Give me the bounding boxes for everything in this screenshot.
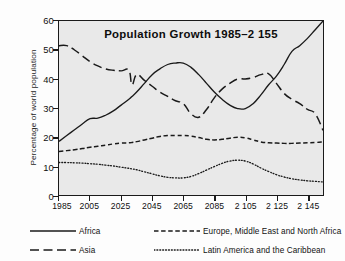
legend-label: Latin America and the Caribbean (203, 246, 325, 255)
legend-line-dashed-icon (154, 226, 200, 236)
chart-title: Population Growth 1985–2 155 (59, 28, 323, 40)
x-axis-tick-label: 2 145 (297, 201, 319, 211)
legend-line-longdash-icon (30, 245, 76, 255)
legend-line-dotted-icon (154, 245, 200, 255)
y-axis-tick-labels: 0102030405060 (26, 15, 54, 196)
plot-area: Population Growth 1985–2 155 (58, 20, 324, 196)
x-axis-tick-label: 1985 (52, 201, 72, 211)
figure-population-growth: Percentage of world population 010203040… (0, 0, 345, 261)
legend-label: Asia (79, 246, 95, 255)
x-axis-tick-label: 2005 (80, 201, 100, 211)
x-axis-tick-label: 2 125 (266, 201, 288, 211)
chart-legend: AfricaEurope, Middle East and North Afri… (26, 224, 336, 260)
series-line-europe-middle-east-and-north-africa (59, 135, 323, 151)
x-axis-tick-labels: 1985200520252045206520852 1052 1252 145 (58, 201, 324, 215)
legend-item-europe-middle-east-and-north-africa[interactable]: Europe, Middle East and North Africa (154, 224, 341, 238)
legend-line-solid-icon (30, 226, 76, 236)
x-axis-tick-label: 2 105 (235, 201, 257, 211)
legend-label: Europe, Middle East and North Africa (203, 227, 341, 236)
x-axis-tick-label: 2065 (173, 201, 193, 211)
x-axis-tick-label: 2045 (142, 201, 162, 211)
x-axis-tick-label: 2025 (111, 201, 131, 211)
legend-label: Africa (79, 227, 101, 236)
legend-item-asia[interactable]: Asia (30, 243, 95, 257)
series-lines (59, 21, 323, 195)
x-axis-tick-label: 2085 (205, 201, 225, 211)
legend-item-africa[interactable]: Africa (30, 224, 101, 238)
legend-item-latin-america-and-the-caribbean[interactable]: Latin America and the Caribbean (154, 243, 325, 257)
series-line-latin-america-and-the-caribbean (59, 160, 323, 182)
